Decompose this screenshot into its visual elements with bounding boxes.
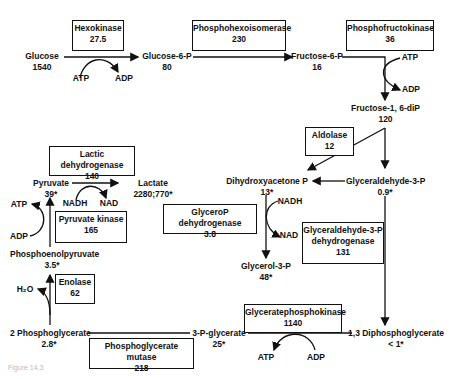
metabolite-value: < 1* [346,339,446,350]
enzyme-name: Aldolase [306,130,353,141]
cofactor-atp: ATP [255,352,277,363]
figure-caption: Figure 14.3 [8,364,43,371]
enzyme-activity: 62 [56,288,94,299]
enzyme-phosphohexoisomerase: Phosphohexoisomerase230 [192,20,286,51]
enzyme-name: Phosphofructokinase [347,23,433,34]
metabolite-glycerol-3-p: Glycerol-3-P48* [238,261,294,283]
metabolite-value: 120 [348,114,423,125]
metabolite-value: 2280;770* [122,189,184,200]
enzyme-enolase: Enolase62 [55,274,95,304]
metabolite-value: 3.5* [10,260,94,271]
enzyme-activity: 131 [303,247,383,258]
enzyme-glycerop-dehydrogenase: GlyceroP dehydrogenase3.8 [163,204,257,234]
enzyme-name: Phosphoglycerate mutase [90,341,193,363]
metabolite-value: 48* [238,272,294,283]
metabolite-value: 1540 [20,62,64,73]
cofactor-h2o: H₂O [14,284,36,295]
enzyme-aldolase: Aldolase12 [305,127,354,156]
enzyme-phosphoglycerate-mutase: Phosphoglycerate mutase218 [89,338,194,369]
enzyme-lactic-dehydrogenase: Lactic dehydrogenase140 [49,146,135,176]
metabolite-name: Glucose [20,51,64,62]
metabolite-value: 16 [291,62,343,73]
cofactor-adp: ADP [113,73,135,84]
metabolite-name: 3-P-glycerate [189,328,249,339]
enzyme-name: Phosphohexoisomerase [193,23,285,34]
metabolite-name: Glyceraldehyde-3-P [346,176,424,187]
cofactor-nad: NAD [98,198,120,209]
enzyme-activity: 230 [193,34,285,45]
enzyme-name: Hexokinase [73,23,123,34]
metabolite-value: 2.8* [10,339,88,350]
enzyme-name: Lactic dehydrogenase [50,149,134,171]
metabolite-name: Fructose-6-P [291,51,343,62]
metabolite-name: Fructose-1, 6-diP [348,103,423,114]
metabolite-phosphoenolpyruvate: Phosphoenolpyruvate3.5* [10,249,94,271]
enzyme-phosphofructokinase: Phosphofructokinase36 [346,20,434,51]
metabolite-name: Dihydroxyacetone P [226,176,308,187]
enzyme-name: Glyceraldehyde-3-P [303,225,383,236]
enzyme-activity: 27.5 [73,34,123,45]
enzyme-glyceratephosphokinase: Glyceratephosphokinase1140 [244,304,342,333]
cofactor-atp: ATP [8,199,30,210]
metabolite-name: 2 Phosphoglycerate [10,328,88,339]
cofactor-atp: ATP [70,73,92,84]
metabolite-name: Glycerol-3-P [238,261,294,272]
enzyme-name: dehydrogenase [303,236,383,247]
metabolite-3-p-glycerate: 3-P-glycerate25* [189,328,249,350]
enzyme-activity: 12 [306,141,353,152]
metabolite-fructose-diphosphate: Fructose-1, 6-diP120 [348,103,423,125]
metabolite-2-phosphoglycerate: 2 Phosphoglycerate2.8* [10,328,88,350]
cofactor-nadh: NADH [276,196,304,207]
metabolite-glucose: Glucose1540 [20,51,64,73]
enzyme-pyruvate-kinase: Pyruvate kinase165 [55,211,127,243]
metabolite-value: 25* [189,339,249,350]
enzyme-hexokinase: Hexokinase27.5 [72,20,124,51]
cofactor-adp: ADP [400,84,422,95]
metabolite-name: Phosphoenolpyruvate [10,249,94,260]
enzyme-name: Enolase [56,277,94,288]
metabolite-name: Glucose-6-P [140,51,194,62]
enzyme-name: Glyceratephosphokinase [245,307,341,318]
metabolite-name: 1,3 Diphosphoglycerate [346,328,446,339]
enzyme-activity: 36 [347,34,433,45]
enzyme-activity: 218 [90,363,193,374]
metabolite-value: 80 [140,62,194,73]
enzyme-activity: 1140 [245,318,341,329]
enzyme-activity: 3.8 [164,229,256,240]
cofactor-adp: ADP [305,352,327,363]
metabolite-value: 0.9* [346,187,424,198]
cofactor-nad: NAD [278,230,300,241]
enzyme-activity: 165 [56,225,126,236]
metabolite-dihydroxyacetone-p: Dihydroxyacetone P13* [226,176,308,198]
metabolite-fructose-6-p: Fructose-6-P16 [291,51,343,73]
metabolite-1-3-diphosphoglycerate: 1,3 Diphosphoglycerate< 1* [346,328,446,350]
enzyme-glyceraldehyde-3-p-dehydrogenase: Glyceraldehyde-3-Pdehydrogenase131 [302,222,384,264]
glycolysis-diagram: Glucose1540 Glucose-6-P80 Fructose-6-P16… [0,0,451,379]
enzyme-name: Pyruvate kinase [56,214,126,225]
metabolite-glyceraldehyde-3-p: Glyceraldehyde-3-P0.9* [346,176,424,198]
cofactor-nadh: NADH [61,198,89,209]
cofactor-adp: ADP [8,231,30,242]
metabolite-glucose-6-p: Glucose-6-P80 [140,51,194,73]
enzyme-name: GlyceroP dehydrogenase [164,207,256,229]
enzyme-activity: 140 [50,171,134,182]
cofactor-atp: ATP [399,52,421,63]
